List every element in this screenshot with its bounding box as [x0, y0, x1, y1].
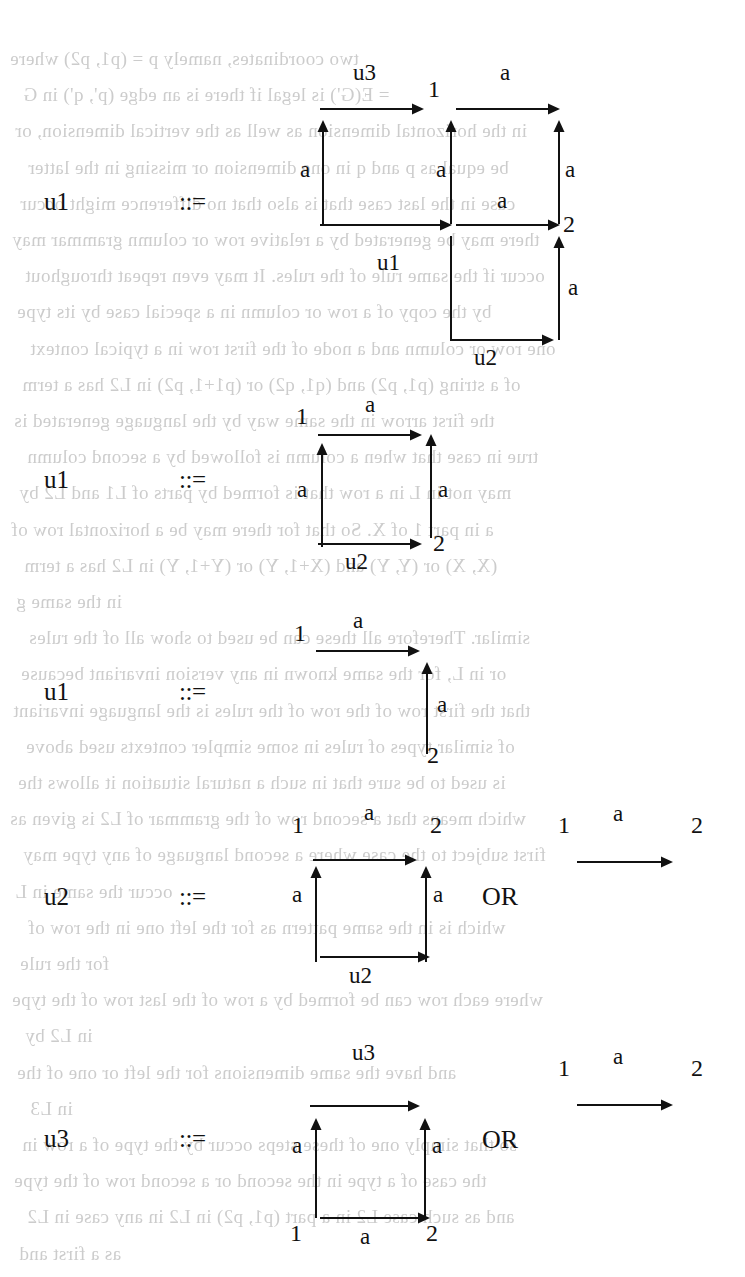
rule-5-edge-label-a-bottom: a: [360, 1224, 370, 1250]
rule-1-edge-label-u1: u1: [377, 250, 400, 276]
rule-2-edge-label-a-right: a: [438, 477, 448, 503]
rule-2-edge-label-u2: u2: [345, 549, 368, 575]
rule-4-defeq: ::=: [179, 883, 206, 911]
rule-2-arrow-a-top-right: [318, 428, 422, 442]
rule-4-alt-node-1: 1: [558, 812, 570, 839]
rule-2-arrow-u2-right: [318, 537, 422, 551]
rule-4-arrow-a-left-up: [309, 866, 323, 962]
rule-2-lhs-label: u1: [44, 466, 69, 494]
rule-4-arrow-u2-right: [320, 950, 430, 964]
rule-2-defeq: ::=: [179, 466, 206, 494]
rule-3-lhs-label: u1: [44, 678, 69, 706]
rule-4-edge-label-u2: u2: [349, 963, 372, 989]
rule-1-edge-label-a-left: a: [300, 157, 310, 183]
rule-1-lhs-label: u1: [44, 188, 69, 216]
rule-1-edge-label-a-midrow: a: [497, 188, 507, 214]
rule-5-alt-node-1: 1: [558, 1055, 570, 1082]
rule-5-lhs-label: u3: [44, 1125, 69, 1153]
rule-2-node-1: 1: [296, 403, 308, 430]
rule-1-arrow-a-left-up: [316, 120, 330, 224]
rule-3-arrow-a-top-right: [316, 644, 420, 658]
rule-1-edge-label-u2: u2: [474, 345, 497, 371]
rule-1-arrow-a-midrow-right: [456, 218, 560, 232]
rule-4-edge-label-a-left: a: [292, 882, 302, 908]
rule-1-edge-label-a-right: a: [565, 157, 575, 183]
rule-4-node-1: 1: [292, 812, 304, 839]
rule-3-defeq: ::=: [179, 678, 206, 706]
rule-5-arrow-a-right-up: [418, 1118, 432, 1218]
rule-3-node-2: 2: [427, 742, 439, 769]
rule-1-defeq: ::=: [179, 188, 206, 216]
rule-4-lhs-label: u2: [44, 883, 69, 911]
rule-3-node-1: 1: [294, 620, 306, 647]
rule-5-alt-edge-label-a: a: [613, 1044, 623, 1070]
rule-4-edge-label-a-top: a: [364, 800, 374, 826]
rule-5-alt-arrow-a-right: [577, 1098, 673, 1112]
rule-5-edge-label-a-left: a: [292, 1133, 302, 1159]
rule-1-arrow-a-top-right: [456, 102, 560, 116]
rule-2-node-2: 2: [433, 530, 445, 557]
rule-5-arrow-a-left-up: [309, 1118, 323, 1218]
rule-3-edge-label-a-right: a: [437, 692, 447, 718]
rule-1-line-lower-left-vertical: [450, 236, 452, 340]
rule-1-edge-label-u3: u3: [353, 60, 376, 86]
rule-5-edge-label-u3: u3: [352, 1040, 375, 1066]
rule-1-edge-label-a-top: a: [500, 60, 510, 86]
rule-1-arrow-a-bottom-right-up: [552, 236, 566, 340]
rule-1-arrow-a-right-up: [552, 120, 566, 224]
rule-4-node-2: 2: [430, 812, 442, 839]
rule-1-node-1: 1: [428, 76, 440, 103]
rule-4-alt-edge-label-a: a: [613, 801, 623, 827]
rule-4-arrow-a-right-up: [419, 866, 433, 962]
rule-5-defeq: ::=: [179, 1125, 206, 1153]
rule-2-arrow-a-left-up: [315, 443, 329, 547]
rule-5-or-label: OR: [482, 1125, 518, 1155]
rule-1-arrow-u2-right: [450, 333, 554, 347]
rule-2-edge-label-a-top: a: [365, 392, 375, 418]
rule-5-node-1: 1: [290, 1220, 302, 1247]
rule-4-edge-label-a-right: a: [433, 882, 443, 908]
rule-3-edge-label-a-top: a: [353, 608, 363, 634]
rule-2-edge-label-a-left: a: [297, 477, 307, 503]
rule-5-edge-label-a-right: a: [432, 1133, 442, 1159]
rule-4-alt-arrow-a-right: [577, 855, 673, 869]
rule-1-node-2: 2: [563, 211, 575, 238]
rule-5-alt-node-2: 2: [691, 1055, 703, 1082]
rule-1-arrow-a-mid-up: [444, 120, 458, 224]
rule-4-alt-node-2: 2: [691, 812, 703, 839]
rule-5-arrow-a-bottom-right: [320, 1211, 430, 1225]
rule-5-arrow-u3-right: [310, 1099, 420, 1113]
rule-4-or-label: OR: [482, 882, 518, 912]
rule-2-arrow-a-right-up: [424, 434, 438, 538]
rule-1-arrow-u3-right: [320, 102, 424, 116]
rule-4-arrow-a-top-right: [313, 853, 417, 867]
rule-5-node-2: 2: [426, 1220, 438, 1247]
rule-1-arrow-lower-left-right: [320, 218, 452, 232]
rule-3-arrow-a-right-up: [420, 662, 434, 754]
rule-1-edge-label-a-bottom-right: a: [568, 275, 578, 301]
document-page: u1 ::= u3 1 a a a a: [0, 0, 745, 1277]
